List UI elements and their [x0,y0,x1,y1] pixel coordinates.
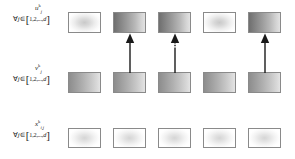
variable-u: ukj [35,4,42,14]
x-box-1 [68,128,101,148]
diagram-canvas: ukj ∀j∈[1,2,...,d] vkj ∀j∈[1,2,...,d] xk… [0,0,295,159]
u-box-5 [248,12,281,33]
v-box-5 [248,72,281,93]
v-box-1 [68,72,101,93]
quantifier-u: ∀j∈[1,2,...,d] [13,14,50,25]
row-label-v: vkj ∀j∈[1,2,...,d] [13,64,65,94]
v-box-3 [158,72,191,93]
v-box-2 [113,72,146,93]
arrow-column-2 [123,33,137,73]
arrow-column-5 [258,33,272,73]
quantifier-v: ∀j∈[1,2,...,d] [13,74,50,85]
x-box-3 [158,128,191,148]
x-box-5 [248,128,281,148]
x-box-4 [203,128,236,148]
u-box-1 [68,12,101,33]
v-box-4 [203,72,236,93]
arrow-column-3 [168,33,182,73]
u-box-2 [113,12,146,33]
variable-v: vkj [35,64,42,74]
u-box-4 [203,12,236,33]
row-label-x: xki,j ∀j∈[1,2,...,d] [13,120,65,150]
u-box-3 [158,12,191,33]
row-label-u: ukj ∀j∈[1,2,...,d] [13,4,65,34]
x-box-2 [113,128,146,148]
quantifier-x: ∀j∈[1,2,...,d] [13,130,50,141]
variable-x: xki,j [35,120,44,130]
